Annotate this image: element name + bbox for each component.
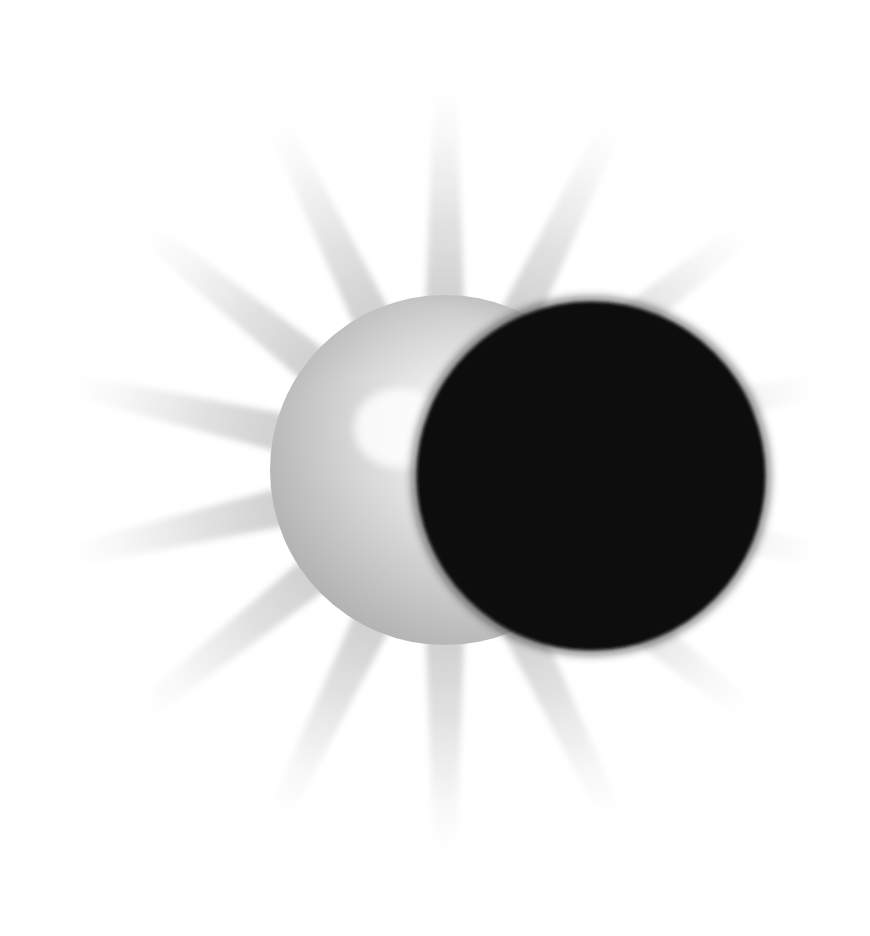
moon-disc <box>412 297 770 655</box>
eclipse-svg-canvas <box>0 0 870 936</box>
page-root <box>0 0 870 936</box>
moon-body <box>417 302 765 650</box>
eclipse-illustration <box>0 0 870 936</box>
